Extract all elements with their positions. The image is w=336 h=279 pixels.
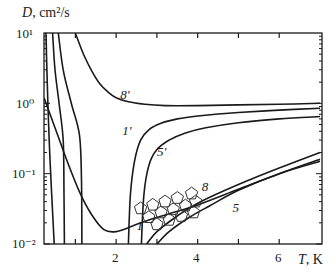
y-tick-label: 10⁰ bbox=[16, 96, 34, 112]
chart-plot bbox=[0, 0, 336, 279]
curve-label: 8 bbox=[202, 179, 209, 195]
curve-left-steep-1 bbox=[46, 33, 54, 244]
pentagon-marker bbox=[185, 187, 197, 199]
curve-1p bbox=[128, 108, 320, 244]
curve-label: 5 bbox=[232, 200, 239, 216]
x-tick-label: 6 bbox=[275, 250, 282, 266]
y-tick-label: 10⁻¹ bbox=[12, 166, 36, 182]
curve-label: 1' bbox=[122, 123, 131, 139]
curves bbox=[44, 33, 320, 244]
curve-8 bbox=[147, 153, 320, 245]
curve-left-vertical-2 bbox=[58, 33, 82, 244]
pentagon-marker bbox=[134, 202, 146, 214]
x-tick-label: 4 bbox=[193, 250, 200, 266]
y-tick-label: 10⁻² bbox=[12, 236, 36, 252]
curve-label: 8' bbox=[120, 87, 129, 103]
pentagon-marker bbox=[151, 218, 163, 230]
curve-8p bbox=[75, 33, 320, 106]
x-tick-label: 2 bbox=[112, 250, 119, 266]
curve-label: 1 bbox=[137, 218, 144, 234]
x-axis-label: T, K bbox=[298, 252, 323, 268]
y-tick-label: 10¹ bbox=[16, 26, 33, 42]
curve-label: 5' bbox=[157, 144, 166, 160]
y-axis-label: D, cm²/s bbox=[22, 5, 70, 21]
